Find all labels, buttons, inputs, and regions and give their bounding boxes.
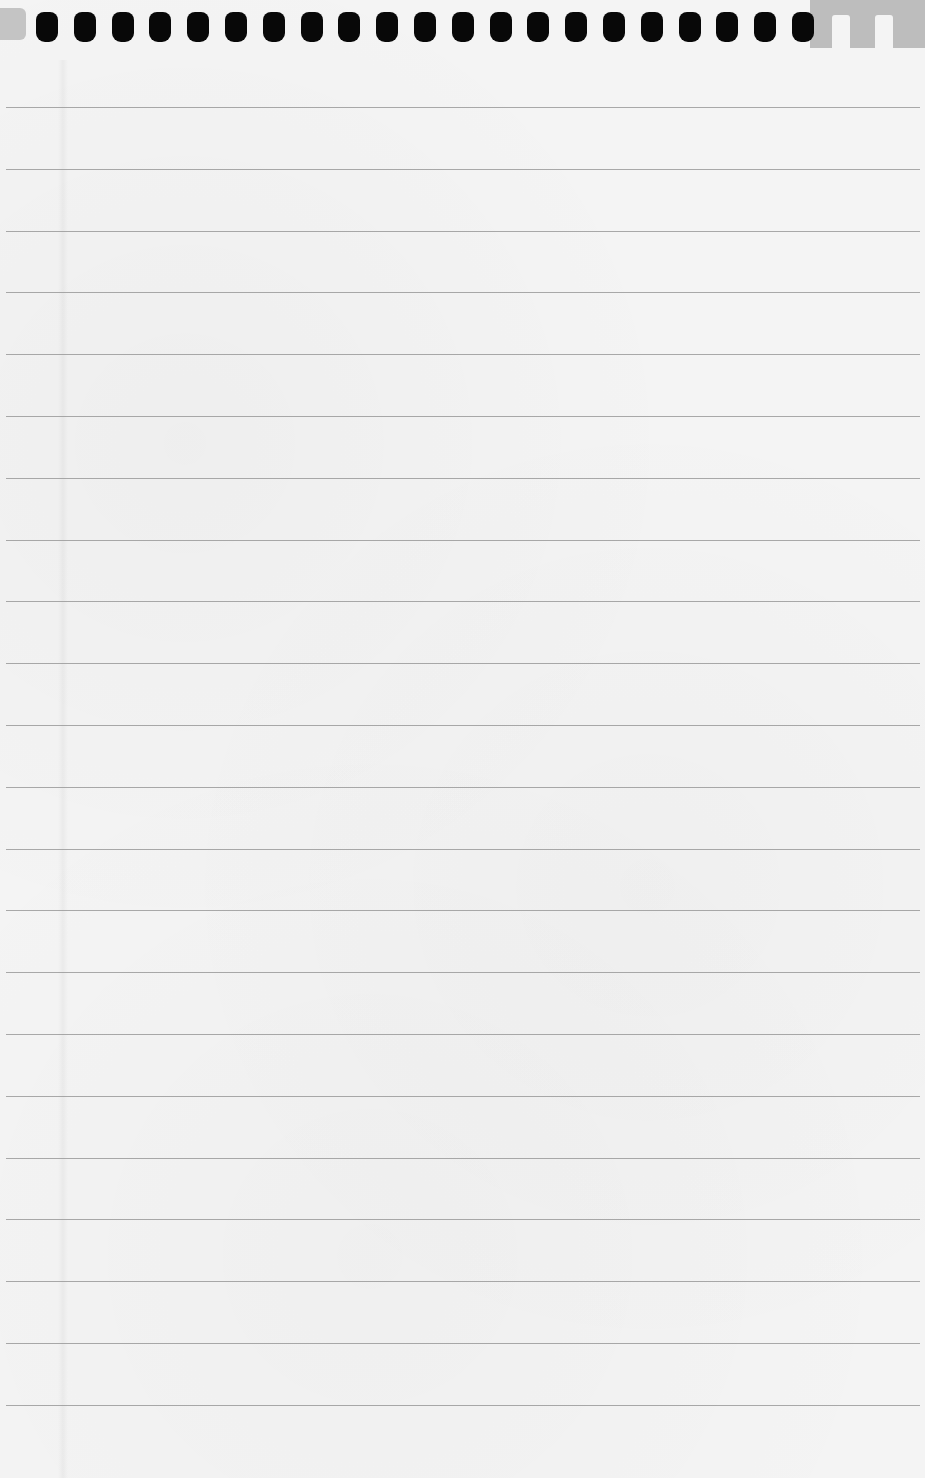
binding-hole-icon [414, 12, 436, 42]
binding-hole-icon [263, 12, 285, 42]
binding-hole-icon [225, 12, 247, 42]
binding-holes-row [0, 0, 925, 60]
ruled-line [6, 601, 920, 602]
ruled-line [6, 292, 920, 293]
ruled-line [6, 1034, 920, 1035]
ruled-line [6, 478, 920, 479]
binding-hole-icon [527, 12, 549, 42]
binding-hole-icon [338, 12, 360, 42]
ruled-line [6, 540, 920, 541]
binding-hole-icon [641, 12, 663, 42]
binding-hole-icon [716, 12, 738, 42]
ruled-line [6, 107, 920, 108]
ruled-line [6, 1219, 920, 1220]
binding-hole-icon [376, 12, 398, 42]
ruled-line [6, 416, 920, 417]
ruled-line [6, 1281, 920, 1282]
ruled-line [6, 1343, 920, 1344]
binding-hole-icon [36, 12, 58, 42]
ruled-line [6, 354, 920, 355]
binding-hole-icon [74, 12, 96, 42]
margin-shadow [58, 60, 68, 1478]
binding-hole-icon [490, 12, 512, 42]
binding-hole-icon [792, 12, 814, 42]
ruled-line [6, 910, 920, 911]
binding-hole-icon [187, 12, 209, 42]
binding-hole-icon [679, 12, 701, 42]
ruled-line [6, 1405, 920, 1406]
ruled-line [6, 849, 920, 850]
ruled-line [6, 231, 920, 232]
binding-hole-icon [754, 12, 776, 42]
notepad-sheet [0, 0, 925, 1478]
ruled-line [6, 787, 920, 788]
ruled-line [6, 663, 920, 664]
binding-hole-icon [452, 12, 474, 42]
binding-hole-icon [603, 12, 625, 42]
binding-hole-icon [112, 12, 134, 42]
binding-hole-icon [565, 12, 587, 42]
ruled-line [6, 169, 920, 170]
binding-hole-icon [301, 12, 323, 42]
ruled-line [6, 1158, 920, 1159]
ruled-line [6, 972, 920, 973]
ruled-line [6, 725, 920, 726]
binding-hole-icon [149, 12, 171, 42]
ruled-line [6, 1096, 920, 1097]
